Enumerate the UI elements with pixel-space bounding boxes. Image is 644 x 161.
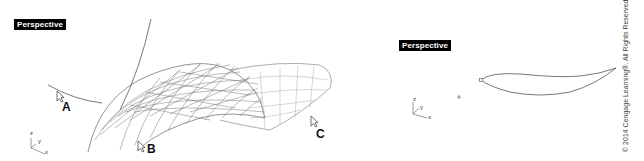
copyright-notice: © 2014 Cengage Learning®. All Rights Res… — [622, 0, 629, 152]
cursor-icon-b — [138, 141, 145, 152]
axis-label-z: z — [413, 96, 416, 102]
perspective-viewport-right[interactable]: Perspective z y x — [380, 0, 610, 161]
control-point-icon — [480, 79, 483, 82]
cursor-icon-c — [311, 116, 318, 127]
callout-label-c: C — [316, 128, 325, 140]
axis-label-y: y — [38, 138, 41, 144]
perspective-viewport-left[interactable]: Perspective — [0, 0, 370, 161]
axis-label-z: z — [30, 130, 33, 136]
callout-label-a: A — [62, 101, 71, 113]
airfoil-curve — [380, 0, 610, 161]
wireframe-surfaces — [0, 0, 370, 161]
axis-label-x: x — [45, 149, 48, 155]
axis-label-y: y — [420, 104, 423, 110]
point-marker-icon — [458, 96, 460, 98]
callout-label-b: B — [147, 143, 156, 155]
axis-label-x: x — [428, 114, 431, 120]
